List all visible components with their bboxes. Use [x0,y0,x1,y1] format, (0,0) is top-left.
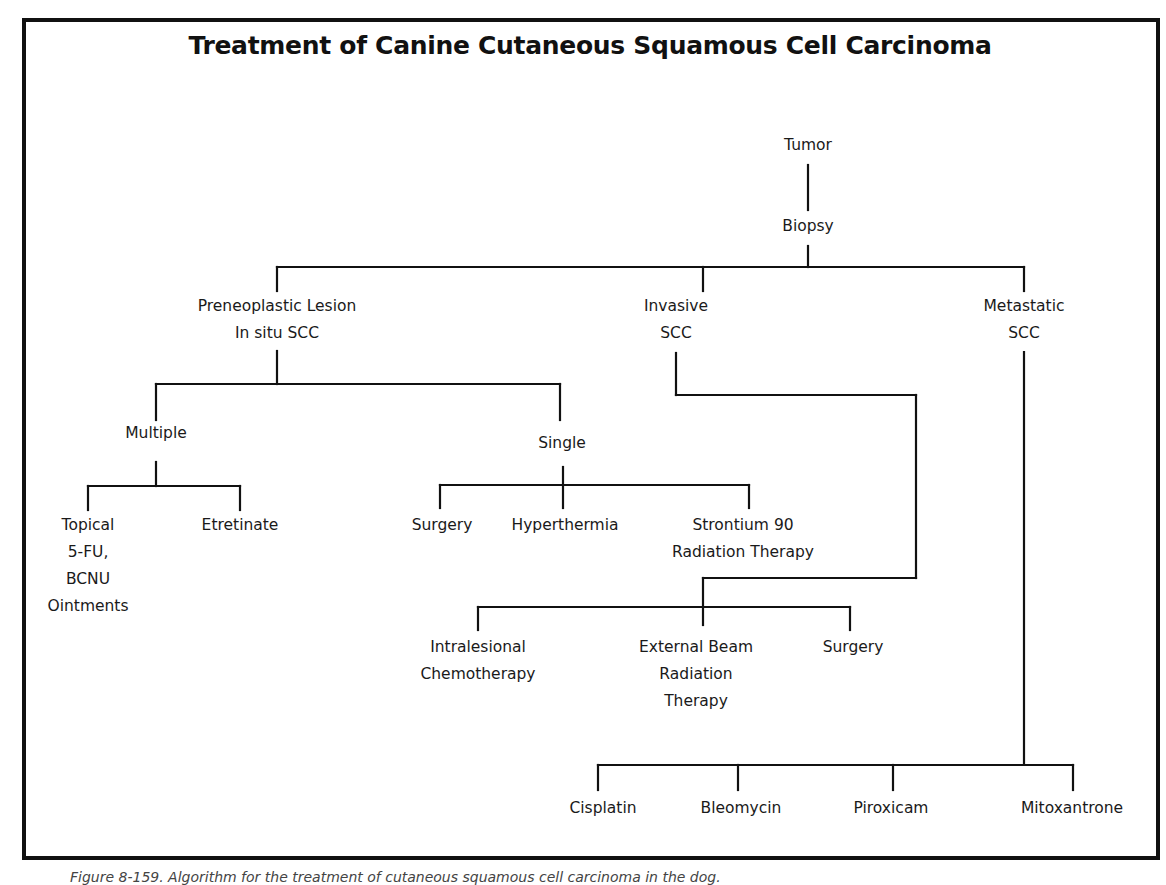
node-invasive-line2: SCC [644,320,708,347]
node-external-line1: External Beam [639,634,753,661]
node-metastatic-line2: SCC [983,320,1064,347]
node-intralesional-line2: Chemotherapy [420,661,535,688]
node-bleomycin-label: Bleomycin [701,795,782,822]
node-intralesional-line1: Intralesional [420,634,535,661]
node-single-surgery-label: Surgery [412,512,473,539]
figure-caption: Figure 8-159. Algorithm for the treatmen… [70,869,721,885]
node-external-beam-radiation: External Beam Radiation Therapy [639,634,753,715]
node-topical-line3: BCNU [47,566,128,593]
node-cisplatin-label: Cisplatin [569,795,636,822]
node-multiple: Multiple [125,420,187,447]
node-biopsy-label: Biopsy [782,213,834,240]
node-invasive-surgery: Surgery [823,634,884,661]
node-etretinate: Etretinate [202,512,279,539]
node-hyperthermia: Hyperthermia [511,512,618,539]
node-intralesional-chemotherapy: Intralesional Chemotherapy [420,634,535,688]
node-strontium-90: Strontium 90 Radiation Therapy [672,512,814,566]
node-invasive-line1: Invasive [644,293,708,320]
node-topical-line1: Topical [47,512,128,539]
node-hyperthermia-label: Hyperthermia [511,512,618,539]
node-invasive-surgery-label: Surgery [823,634,884,661]
node-metastatic-scc: Metastatic SCC [983,293,1064,347]
node-strontium-line2: Radiation Therapy [672,539,814,566]
node-biopsy: Biopsy [782,213,834,240]
node-etretinate-label: Etretinate [202,512,279,539]
node-preneoplastic-line2: In situ SCC [198,320,357,347]
node-strontium-line1: Strontium 90 [672,512,814,539]
node-bleomycin: Bleomycin [701,795,782,822]
node-tumor: Tumor [784,132,832,159]
node-invasive-scc: Invasive SCC [644,293,708,347]
node-topical-ointments: Topical 5-FU, BCNU Ointments [47,512,128,620]
node-preneoplastic-line1: Preneoplastic Lesion [198,293,357,320]
node-metastatic-line1: Metastatic [983,293,1064,320]
node-topical-line2: 5-FU, [47,539,128,566]
node-piroxicam: Piroxicam [854,795,929,822]
node-mitoxantrone: Mitoxantrone [1021,795,1123,822]
node-preneoplastic-lesion: Preneoplastic Lesion In situ SCC [198,293,357,347]
node-multiple-label: Multiple [125,420,187,447]
node-mitoxantrone-label: Mitoxantrone [1021,795,1123,822]
node-single-label: Single [538,430,586,457]
node-single-surgery: Surgery [412,512,473,539]
node-tumor-label: Tumor [784,132,832,159]
node-single: Single [538,430,586,457]
node-external-line3: Therapy [639,688,753,715]
node-cisplatin: Cisplatin [569,795,636,822]
node-topical-line4: Ointments [47,593,128,620]
node-piroxicam-label: Piroxicam [854,795,929,822]
node-external-line2: Radiation [639,661,753,688]
